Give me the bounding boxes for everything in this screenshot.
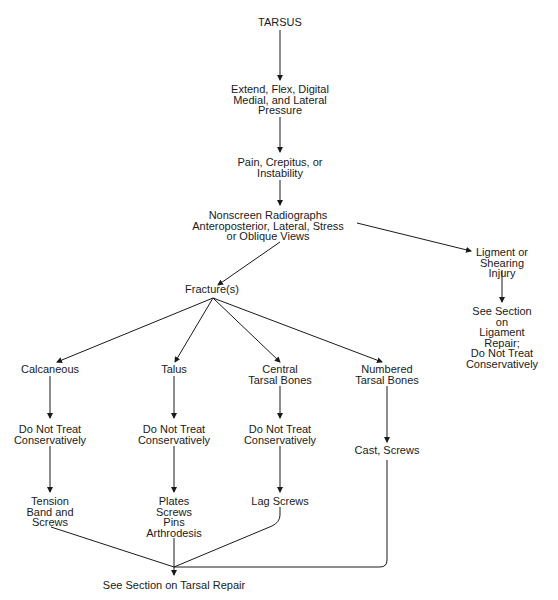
- node-central-dnt: Do Not Treat Conservatively: [244, 424, 316, 445]
- node-exam: Extend, Flex, Digital Medial, and Latera…: [231, 84, 329, 116]
- node-lag-screws: Lag Screws: [251, 496, 308, 507]
- node-ligament-repair: See Section on Ligament Repair; Do Not T…: [466, 306, 538, 369]
- node-numbered-tarsal: Numbered Tarsal Bones: [355, 364, 419, 385]
- node-talus: Talus: [161, 364, 187, 375]
- node-calc-dnt: Do Not Treat Conservatively: [14, 424, 86, 445]
- node-signs: Pain, Crepitus, or Instability: [238, 157, 323, 178]
- node-tarsus: TARSUS: [258, 17, 302, 28]
- node-fractures: Fracture(s): [185, 284, 239, 295]
- node-central-tarsal: Central Tarsal Bones: [248, 364, 312, 385]
- node-tarsal-repair: See Section on Tarsal Repair: [103, 580, 245, 591]
- node-calcaneous: Calcaneous: [21, 364, 79, 375]
- node-cast-screws: Cast, Screws: [355, 445, 420, 456]
- node-radiographs: Nonscreen Radiographs Anteroposterior, L…: [192, 210, 344, 242]
- node-ligament: Ligment or Shearing Injury: [474, 247, 530, 279]
- node-talus-dnt: Do Not Treat Conservatively: [138, 424, 210, 445]
- node-tension-band: Tension Band and Screws: [26, 496, 73, 528]
- node-plates: Plates Screws Pins Arthrodesis: [146, 496, 202, 538]
